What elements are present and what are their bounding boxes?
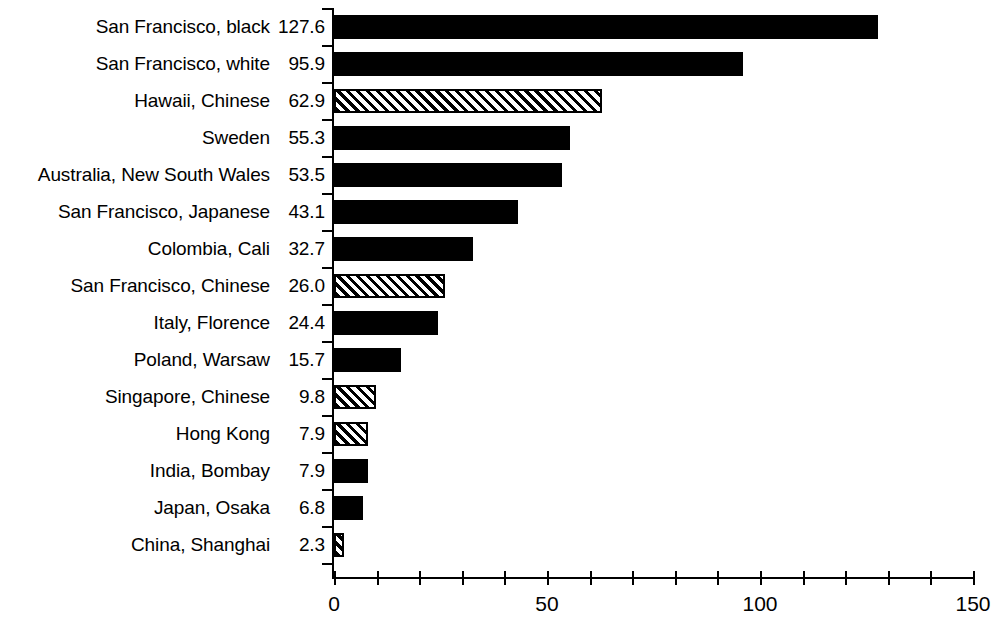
bar-row: India, Bombay7.9 <box>0 452 989 489</box>
bar-category-label: San Francisco, white <box>96 54 270 74</box>
bar-value-label: 9.8 <box>299 387 325 407</box>
bar-value-label: 43.1 <box>288 202 325 222</box>
bar-track <box>334 237 473 261</box>
bar-solid <box>334 15 878 39</box>
bar-value-label: 62.9 <box>288 91 325 111</box>
bar-hatched <box>334 385 376 409</box>
bar-track <box>334 459 368 483</box>
bar-row: Colombia, Cali32.7 <box>0 230 989 267</box>
x-axis-tick <box>845 571 847 585</box>
bar-hatched <box>334 274 445 298</box>
bar-track <box>334 126 570 150</box>
bar-value-label: 2.3 <box>299 535 325 555</box>
bar-row: Japan, Osaka6.8 <box>0 489 989 526</box>
bar-category-label: India, Bombay <box>150 461 270 481</box>
x-axis-tick <box>973 571 975 585</box>
bar-solid <box>334 348 401 372</box>
x-axis-tick-label: 50 <box>535 592 558 616</box>
bar-row: San Francisco, Chinese26.0 <box>0 267 989 304</box>
bar-solid <box>334 163 562 187</box>
x-axis-tick <box>377 571 379 585</box>
bar-row: San Francisco, white95.9 <box>0 45 989 82</box>
bar-track <box>334 163 562 187</box>
bar-solid <box>334 459 368 483</box>
bar-track <box>334 52 743 76</box>
x-axis-tick <box>547 571 549 585</box>
bar-value-label: 55.3 <box>288 128 325 148</box>
bar-value-label: 127.6 <box>278 17 325 37</box>
x-axis-tick <box>590 571 592 585</box>
bar-track <box>334 200 518 224</box>
bar-category-label: Hong Kong <box>176 424 270 444</box>
bar-hatched <box>334 533 344 557</box>
bar-category-label: Colombia, Cali <box>148 239 270 259</box>
bar-category-label: San Francisco, Japanese <box>58 202 270 222</box>
bar-value-label: 95.9 <box>288 54 325 74</box>
bar-value-label: 6.8 <box>299 498 325 518</box>
bar-category-label: Singapore, Chinese <box>105 387 270 407</box>
bar-solid <box>334 311 438 335</box>
x-axis-tick <box>888 571 890 585</box>
bar-solid <box>334 200 518 224</box>
bar-value-label: 15.7 <box>288 350 325 370</box>
bar-category-label: Sweden <box>202 128 270 148</box>
bar-row: China, Shanghai2.3 <box>0 526 989 563</box>
bar-row: Italy, Florence24.4 <box>0 304 989 341</box>
bar-value-label: 26.0 <box>288 276 325 296</box>
x-axis-line <box>332 577 973 579</box>
bar-value-label: 7.9 <box>299 461 325 481</box>
bar-row: Singapore, Chinese9.8 <box>0 378 989 415</box>
bar-solid <box>334 52 743 76</box>
bar-track <box>334 422 368 446</box>
bar-category-label: San Francisco, black <box>96 17 270 37</box>
x-axis-tick <box>760 571 762 585</box>
bar-track <box>334 348 401 372</box>
x-axis-tick <box>930 571 932 585</box>
bar-track <box>334 385 376 409</box>
bar-hatched <box>334 422 368 446</box>
bar-track <box>334 311 438 335</box>
bar-solid <box>334 496 363 520</box>
bar-solid <box>334 237 473 261</box>
x-axis-tick <box>632 571 634 585</box>
bar-category-label: Japan, Osaka <box>154 498 270 518</box>
bar-category-label: Poland, Warsaw <box>134 350 270 370</box>
bar-category-label: China, Shanghai <box>131 535 270 555</box>
x-axis-tick <box>334 571 336 585</box>
bar-category-label: Italy, Florence <box>154 313 270 333</box>
y-axis-tick <box>322 563 333 565</box>
bar-row: Hong Kong7.9 <box>0 415 989 452</box>
bar-row: Australia, New South Wales53.5 <box>0 156 989 193</box>
bar-category-label: San Francisco, Chinese <box>70 276 270 296</box>
bar-row: San Francisco, black127.6 <box>0 8 989 45</box>
x-axis-tick-label: 150 <box>955 592 990 616</box>
bar-hatched <box>334 89 602 113</box>
bar-row: Hawaii, Chinese62.9 <box>0 82 989 119</box>
x-axis-tick <box>419 571 421 585</box>
x-axis-tick-label: 0 <box>328 592 340 616</box>
x-axis-tick <box>462 571 464 585</box>
bar-value-label: 53.5 <box>288 165 325 185</box>
x-axis-tick <box>675 571 677 585</box>
bar-track <box>334 274 445 298</box>
bar-value-label: 24.4 <box>288 313 325 333</box>
bar-track <box>334 15 878 39</box>
bar-value-label: 7.9 <box>299 424 325 444</box>
x-axis-tick <box>504 571 506 585</box>
bar-value-label: 32.7 <box>288 239 325 259</box>
bar-category-label: Australia, New South Wales <box>38 165 270 185</box>
bar-solid <box>334 126 570 150</box>
bar-track <box>334 89 602 113</box>
bar-row: Sweden55.3 <box>0 119 989 156</box>
bar-row: San Francisco, Japanese43.1 <box>0 193 989 230</box>
bar-rows-container: San Francisco, black127.6San Francisco, … <box>0 8 989 563</box>
x-axis-tick <box>717 571 719 585</box>
x-axis-tick-label: 100 <box>742 592 777 616</box>
bar-track <box>334 496 363 520</box>
bar-row: Poland, Warsaw15.7 <box>0 341 989 378</box>
bar-track <box>334 533 344 557</box>
bar-category-label: Hawaii, Chinese <box>134 91 270 111</box>
x-axis-tick <box>803 571 805 585</box>
